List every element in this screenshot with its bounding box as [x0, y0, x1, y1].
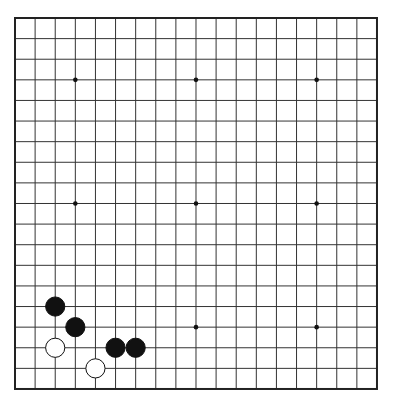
- star-point: [73, 201, 78, 206]
- white-stone: [46, 338, 65, 357]
- black-stone: [106, 338, 125, 357]
- star-point: [314, 78, 319, 83]
- star-point: [73, 78, 78, 83]
- go-board[interactable]: [0, 0, 394, 403]
- star-point: [194, 325, 199, 330]
- star-point: [314, 201, 319, 206]
- star-point: [194, 201, 199, 206]
- black-stone: [66, 318, 85, 337]
- black-stone: [126, 338, 145, 357]
- star-point: [194, 78, 199, 83]
- white-stone: [86, 359, 105, 378]
- star-point: [314, 325, 319, 330]
- black-stone: [46, 297, 65, 316]
